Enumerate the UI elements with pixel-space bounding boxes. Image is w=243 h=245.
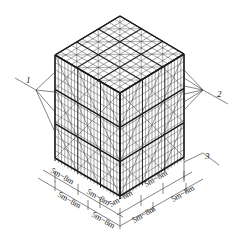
- scaffolding-diagram: 1 2 3 5m~8m 5m~8m 5m~8m 5m~8m 5m~8m 5m~8…: [0, 0, 243, 245]
- dim-label-left-inner-2: 5m~8m: [90, 210, 117, 231]
- dim-label-left-inner-1: 5m~8m: [56, 190, 83, 211]
- callout-1-leader: [15, 72, 55, 132]
- dim-label-right-inner-1: 5m~8m: [131, 204, 158, 225]
- callout-2-label: 2: [217, 89, 222, 99]
- callout-3-leader: [184, 153, 219, 165]
- callout-3-label: 3: [204, 151, 210, 161]
- dim-label-left-outer-1: 5m~8m: [49, 166, 76, 187]
- dim-label-right-inner-2: 5m~8m: [170, 183, 197, 204]
- callout-1-label: 1: [26, 75, 31, 85]
